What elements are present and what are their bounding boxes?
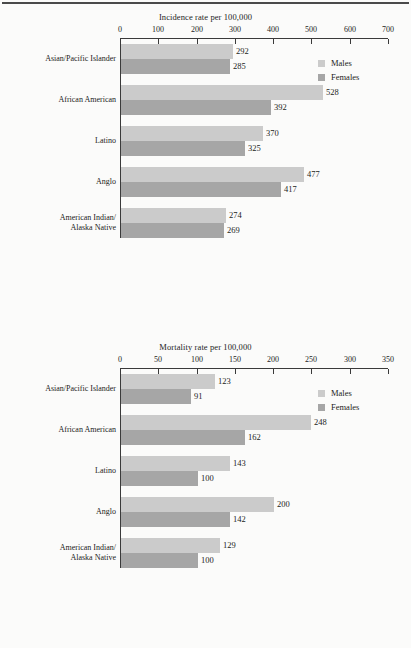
bar-females <box>121 389 191 404</box>
x-axis-tick-label: 200 <box>267 355 279 364</box>
bar-value-label: 370 <box>266 128 279 138</box>
category-label: Asian/Pacific Islander <box>4 54 116 65</box>
bar-males <box>121 538 220 553</box>
bar-females <box>121 223 224 238</box>
chart-incidence-rate: Incidence rate per 100,000 0100200300400… <box>0 12 411 322</box>
x-axis-tick <box>350 369 351 374</box>
bar-males <box>121 85 323 100</box>
legend-label: Males <box>331 388 352 399</box>
category-label: American Indian/ Alaska Native <box>4 213 116 234</box>
x-axis-tick-label: 500 <box>305 25 317 34</box>
bar-value-label: 91 <box>194 391 203 401</box>
legend-swatch-males-icon <box>318 390 325 397</box>
bar-value-label: 477 <box>307 169 320 179</box>
bar-value-label: 248 <box>314 417 327 427</box>
page-clip: Incidence rate per 100,000 0100200300400… <box>0 0 411 648</box>
bar-value-label: 417 <box>284 184 297 194</box>
x-axis-tick <box>235 39 236 44</box>
bar-males <box>121 44 233 59</box>
x-axis-tick-label: 200 <box>191 25 203 34</box>
category-label: Latino <box>4 136 116 147</box>
legend-label: Females <box>331 72 359 83</box>
bar-value-label: 274 <box>229 210 242 220</box>
category-label: American Indian/ Alaska Native <box>4 543 116 564</box>
bar-value-label: 162 <box>248 432 261 442</box>
bar-value-label: 200 <box>277 499 290 509</box>
plot-area-mortality: 050100150200250300350Asian/Pacific Islan… <box>0 342 411 648</box>
x-axis-tick-label: 250 <box>305 355 317 364</box>
bar-females <box>121 100 271 115</box>
x-axis-tick <box>273 39 274 44</box>
category-label: Latino <box>4 466 116 477</box>
x-axis-tick <box>311 369 312 374</box>
legend-swatch-males-icon <box>318 60 325 67</box>
x-axis-line <box>120 368 388 369</box>
bar-males <box>121 374 215 389</box>
chart-mortality-rate: Mortality rate per 100,000 0501001502002… <box>0 342 411 648</box>
legend-label: Females <box>331 402 359 413</box>
bar-value-label: 129 <box>223 540 236 550</box>
bar-value-label: 325 <box>248 143 261 153</box>
x-axis-tick-label: 0 <box>118 25 122 34</box>
x-axis-tick-label: 150 <box>229 355 241 364</box>
bar-females <box>121 182 281 197</box>
bar-males <box>121 415 311 430</box>
bar-females <box>121 430 245 445</box>
category-label: Anglo <box>4 507 116 518</box>
bar-value-label: 269 <box>227 225 240 235</box>
x-axis-tick <box>388 39 389 44</box>
bar-value-label: 100 <box>201 473 214 483</box>
bar-females <box>121 141 245 156</box>
legend-label: Males <box>331 58 352 69</box>
bar-value-label: 392 <box>274 102 287 112</box>
bar-females <box>121 512 230 527</box>
x-axis-tick-label: 350 <box>382 355 394 364</box>
bar-value-label: 143 <box>233 458 246 468</box>
bar-males <box>121 456 230 471</box>
x-axis-line <box>120 38 388 39</box>
bar-value-label: 142 <box>233 514 246 524</box>
x-axis-tick-label: 600 <box>344 25 356 34</box>
bar-females <box>121 59 230 74</box>
bar-value-label: 285 <box>233 61 246 71</box>
legend-swatch-females-icon <box>318 74 325 81</box>
bar-value-label: 100 <box>201 555 214 565</box>
x-axis-tick <box>235 369 236 374</box>
category-label: African American <box>4 95 116 106</box>
bar-females <box>121 553 198 568</box>
x-axis-tick-label: 300 <box>344 355 356 364</box>
bar-value-label: 292 <box>236 46 249 56</box>
x-axis-tick-label: 0 <box>118 355 122 364</box>
x-axis-tick-label: 400 <box>267 25 279 34</box>
bar-males <box>121 167 304 182</box>
bar-value-label: 123 <box>218 376 231 386</box>
x-axis-tick <box>311 39 312 44</box>
x-axis-tick-label: 100 <box>191 355 203 364</box>
x-axis-tick <box>388 369 389 374</box>
bar-males <box>121 126 263 141</box>
x-axis-tick-label: 700 <box>382 25 394 34</box>
category-label: African American <box>4 425 116 436</box>
legend-swatch-females-icon <box>318 404 325 411</box>
bar-females <box>121 471 198 486</box>
x-axis-tick-label: 100 <box>152 25 164 34</box>
x-axis-tick-label: 300 <box>229 25 241 34</box>
bar-value-label: 528 <box>326 87 339 97</box>
x-axis-tick <box>273 369 274 374</box>
plot-area-incidence: 0100200300400500600700Asian/Pacific Isla… <box>0 12 411 322</box>
bar-males <box>121 497 274 512</box>
bar-males <box>121 208 226 223</box>
category-label: Anglo <box>4 177 116 188</box>
x-axis-tick <box>350 39 351 44</box>
x-axis-tick-label: 50 <box>154 355 162 364</box>
category-label: Asian/Pacific Islander <box>4 384 116 395</box>
